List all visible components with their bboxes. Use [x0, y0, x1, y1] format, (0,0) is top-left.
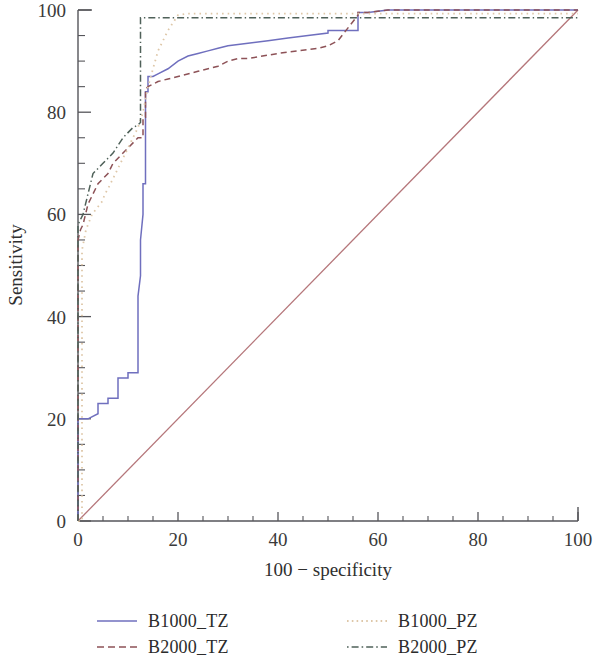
- reference-diagonal-line: [78, 10, 578, 521]
- legend-label-b1000-tz: B1000_TZ: [148, 611, 229, 632]
- legend-label-b2000-tz: B2000_TZ: [148, 637, 229, 658]
- y-tick-label: 60: [47, 204, 66, 225]
- legend-swatch-b1000-pz: [346, 614, 388, 628]
- legend-grid: B1000_TZ B1000_PZ B2000_TZ B2000_PZ: [96, 608, 556, 660]
- legend-swatch-b1000-tz: [96, 614, 138, 628]
- legend-label-b2000-pz: B2000_PZ: [398, 637, 478, 658]
- x-axis-title: 100 − specificity: [264, 559, 392, 580]
- legend-entry-b1000-tz[interactable]: B1000_TZ: [96, 608, 346, 634]
- y-tick-label: 20: [47, 409, 66, 430]
- x-tick-label: 0: [73, 529, 83, 550]
- y-axis-title: Sensitivity: [5, 224, 26, 306]
- legend-entry-b2000-pz[interactable]: B2000_PZ: [346, 634, 556, 660]
- x-tick-label: 60: [369, 529, 388, 550]
- y-tick-label: 40: [47, 307, 66, 328]
- legend-entry-b2000-tz[interactable]: B2000_TZ: [96, 634, 346, 660]
- roc-curves: [78, 10, 578, 521]
- roc-curve-b2000-pz: [78, 18, 578, 521]
- chart-legend: B1000_TZ B1000_PZ B2000_TZ B2000_PZ: [0, 600, 600, 663]
- x-tick-label: 100: [564, 529, 593, 550]
- y-tick-label: 0: [57, 511, 67, 532]
- legend-entry-b1000-pz[interactable]: B1000_PZ: [346, 608, 556, 634]
- roc-plot-svg: 020406080100020406080100 100 − specifici…: [0, 0, 600, 600]
- y-tick-label: 100: [38, 0, 67, 21]
- roc-figure: 020406080100020406080100 100 − specifici…: [0, 0, 600, 663]
- legend-label-b1000-pz: B1000_PZ: [398, 611, 478, 632]
- legend-swatch-b2000-tz: [96, 640, 138, 654]
- legend-swatch-b2000-pz: [346, 640, 388, 654]
- x-tick-label: 80: [469, 529, 488, 550]
- x-tick-label: 40: [269, 529, 288, 550]
- y-tick-label: 80: [47, 102, 66, 123]
- axis-tick-labels: 020406080100020406080100: [38, 0, 593, 550]
- x-tick-label: 20: [169, 529, 188, 550]
